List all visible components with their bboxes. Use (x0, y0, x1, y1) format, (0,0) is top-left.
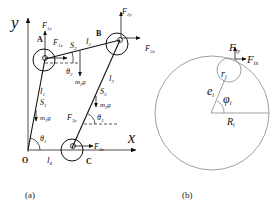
link-l4-label: l4 (47, 155, 53, 166)
force-f2y-label: F2y (121, 7, 132, 17)
panel-b: Fiy Fix ri ei φi Ri (b) (155, 41, 269, 200)
theta3-arc (88, 114, 95, 124)
link-l2-label: l2 (86, 36, 92, 47)
weight-m2g-label: m2g (75, 78, 86, 87)
link-l1-label: l1 (40, 86, 45, 97)
point-c-label: C (86, 157, 92, 166)
link-l3 (72, 40, 120, 148)
mechanism-diagram: y x O A B C F1y F1x F2y F2x F3y (0, 0, 275, 211)
eccentric-ei-label: ei (207, 84, 214, 98)
radius-ri-small-label: ri (221, 68, 227, 80)
force-f1y-label: F1y (41, 21, 52, 31)
force-fiy-label: Fiy (228, 41, 240, 54)
theta3-label: θ3 (97, 113, 104, 123)
force-f2x-label: F2x (144, 44, 155, 54)
angle-phi-label: φi (223, 92, 232, 106)
force-fix-label: Fix (246, 53, 258, 66)
theta1-label: θ1 (40, 134, 46, 144)
link-l3-label: l3 (109, 73, 115, 84)
theta1-arc (30, 138, 40, 150)
panel-b-caption: (b) (182, 190, 193, 200)
radius-ri-label: Ri (226, 116, 235, 128)
x-axis-label: x (127, 129, 135, 146)
weight-m3g-label: m3g (100, 101, 111, 110)
force-f3x-label: F3x (93, 142, 104, 152)
force-f3y-label: F3y (66, 113, 77, 123)
panel-a: y x O A B C F1y F1x F2y F2x F3y (9, 7, 155, 200)
point-a-label: A (37, 35, 43, 44)
weight-m1g-label: m1g (40, 114, 51, 123)
theta2-arc (72, 52, 73, 63)
panel-a-caption: (a) (25, 190, 35, 200)
theta2-label: θ2 (66, 67, 73, 77)
point-b-label: B (96, 29, 102, 38)
com-s1-label: S1 (40, 98, 47, 108)
com-s3-label: S3 (100, 87, 107, 97)
force-f1x-label: F1x (52, 38, 63, 48)
origin-label: O (22, 156, 28, 165)
wheel-b (106, 33, 128, 55)
y-axis-label: y (9, 13, 19, 32)
com-s2-label: S2 (70, 41, 77, 51)
